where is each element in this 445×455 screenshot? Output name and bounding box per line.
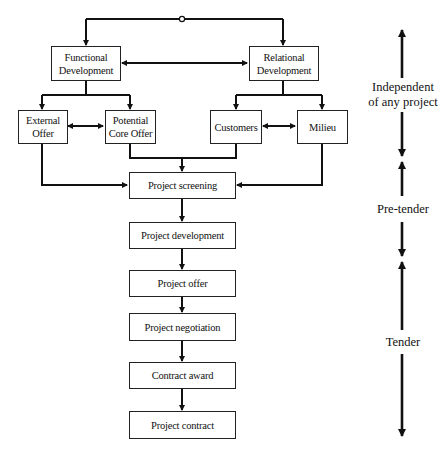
node-label: Customers — [214, 121, 257, 134]
node-project-offer: Project offer — [129, 270, 236, 297]
node-customers: Customers — [210, 110, 262, 144]
node-contract-award: Contract award — [129, 362, 236, 389]
node-potential-core-offer: PotentialCore Offer — [105, 110, 156, 144]
phase-label-independent: Independent of any project — [362, 80, 444, 110]
node-label: Project offer — [158, 277, 208, 290]
top-loop-connector — [86, 19, 283, 45]
node-functional-development: FunctionalDevelopment — [51, 46, 121, 81]
phase-label-pre-tender: Pre-tender — [362, 202, 444, 217]
node-label-line: Development — [257, 64, 311, 77]
node-milieu: Milieu — [297, 110, 348, 144]
node-label: Project negotiation — [145, 321, 221, 334]
phase-label-line: Tender — [362, 335, 444, 350]
phase-label-line: of any project — [362, 95, 444, 110]
node-project-negotiation: Project negotiation — [129, 313, 236, 341]
node-label-line: Functional — [59, 51, 113, 64]
node-project-screening: Project screening — [129, 172, 236, 199]
node-project-development: Project development — [129, 222, 236, 249]
node-external-offer: ExternalOffer — [18, 110, 68, 144]
node-relational-development: RelationalDevelopment — [249, 46, 319, 81]
phase-label-line: Pre-tender — [362, 202, 444, 217]
node-label: Milieu — [309, 121, 336, 134]
node-label-line: Development — [59, 64, 113, 77]
node-label-line: Potential — [109, 114, 153, 127]
node-label: Project development — [141, 229, 224, 242]
phase-label-tender: Tender — [362, 335, 444, 350]
loop-junction-dot — [179, 16, 184, 21]
node-label: Project contract — [151, 419, 214, 432]
node-label-line: Offer — [26, 127, 60, 140]
node-label-line: Relational — [257, 51, 311, 64]
phase-label-line: Independent — [362, 80, 444, 95]
node-label-line: External — [26, 114, 60, 127]
node-project-contract: Project contract — [129, 411, 236, 439]
node-label: Project screening — [148, 179, 217, 192]
node-label: Contract award — [152, 369, 214, 382]
node-label-line: Core Offer — [109, 127, 153, 140]
